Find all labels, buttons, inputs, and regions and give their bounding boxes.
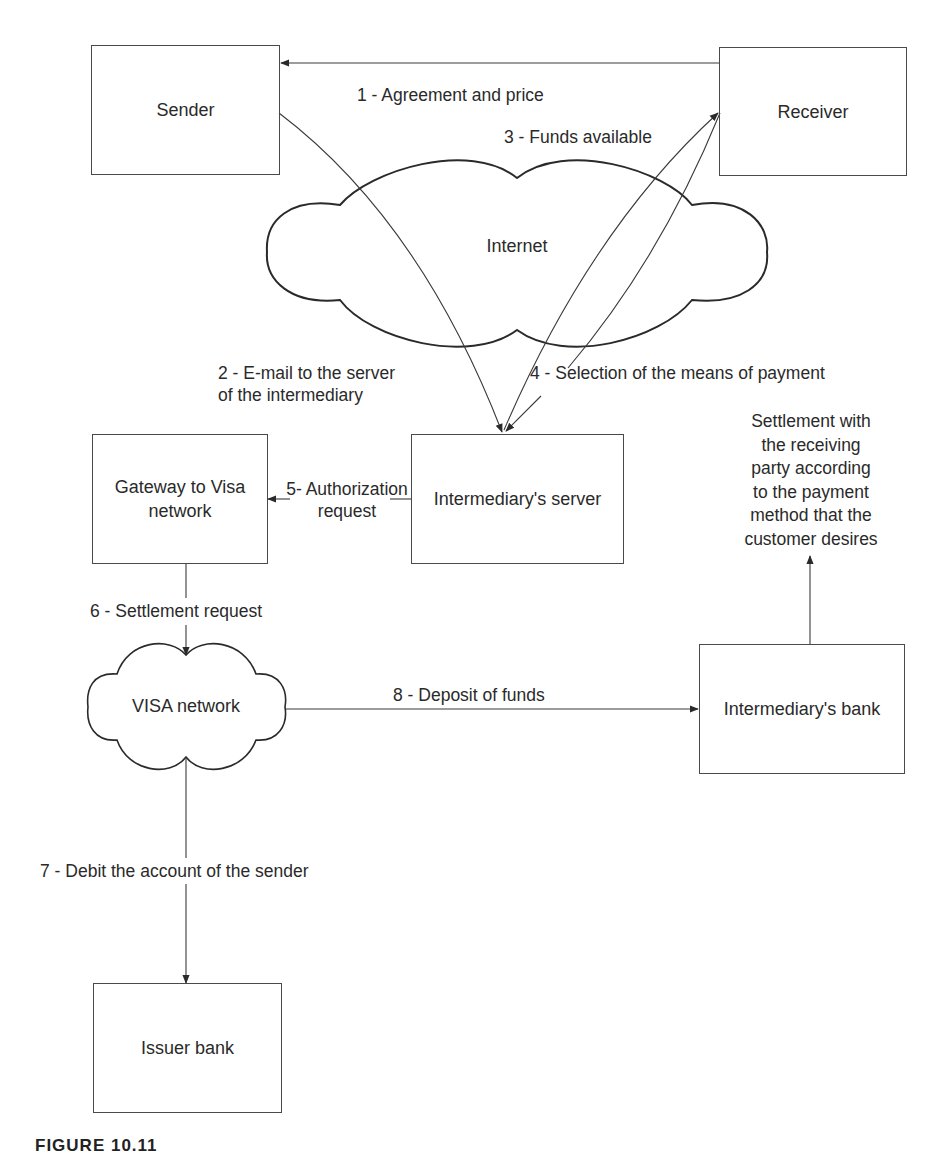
node-receiver-label: Receiver [777,100,848,124]
settlement-note-line: party according [725,457,897,481]
label-step7: 7 - Debit the account of the sender [40,860,309,882]
node-sender-label: Sender [156,98,214,122]
node-gateway-label: Gateway to Visa network [115,475,246,523]
label-step3: 3 - Funds available [504,126,652,148]
label-step4: 4 - Selection of the means of payment [530,362,825,384]
node-gateway: Gateway to Visa network [92,434,268,564]
node-intermediary-server: Intermediary's server [411,434,624,564]
label-step1: 1 - Agreement and price [357,84,544,106]
node-visa-network-label: VISA network [116,696,256,717]
label-step6: 6 - Settlement request [90,600,262,622]
node-intermediary-bank: Intermediary's bank [699,644,905,774]
label-step2-line2: of the intermediary [218,384,395,406]
label-step5: 5- Authorization request [285,478,409,522]
gateway-line1: Gateway to Visa [115,477,246,497]
settlement-note: Settlement with the receiving party acco… [725,410,897,551]
node-internet-label: Internet [467,236,567,257]
label-step5-line2: request [285,500,409,522]
label-step2: 2 - E-mail to the server of the intermed… [218,362,395,406]
node-intermediary-server-label: Intermediary's server [434,487,601,511]
figure-caption: FIGURE 10.11 [35,1136,158,1155]
node-intermediary-bank-label: Intermediary's bank [724,697,881,721]
node-issuer-bank: Issuer bank [93,983,282,1113]
node-issuer-bank-label: Issuer bank [141,1036,234,1060]
settlement-note-line: method that the [725,504,897,528]
settlement-note-line: customer desires [725,528,897,552]
label-step2-line1: 2 - E-mail to the server [218,362,395,384]
node-receiver: Receiver [719,47,907,176]
settlement-note-line: Settlement with [725,410,897,434]
arrow-step4-upper [568,113,720,368]
node-sender: Sender [91,45,280,175]
label-step5-line1: 5- Authorization [285,478,409,500]
settlement-note-line: the receiving [725,434,897,458]
label-step8: 8 - Deposit of funds [393,684,545,706]
settlement-note-line: to the payment [725,481,897,505]
gateway-line2: network [148,501,211,521]
